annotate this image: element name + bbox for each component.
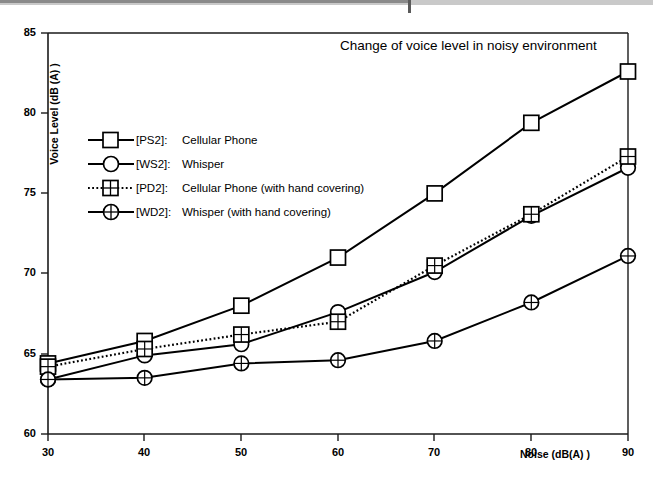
data-point xyxy=(524,115,539,130)
legend-item-pd2[interactable]: [PD2]: Cellular Phone (with hand coverin… xyxy=(86,176,416,200)
data-point xyxy=(137,371,152,386)
y-axis-title: Voice Level (dB (A) ) xyxy=(48,44,60,184)
x-tick-label-50: 50 xyxy=(227,446,255,458)
plot-frame xyxy=(48,33,628,434)
legend-item-wd2[interactable]: [WD2]: Whisper (with hand covering) xyxy=(86,200,416,224)
x-tick-label-90: 90 xyxy=(614,446,642,458)
data-point xyxy=(234,356,249,371)
data-point xyxy=(621,149,636,164)
data-point xyxy=(331,314,346,329)
data-point xyxy=(234,327,249,342)
data-point xyxy=(137,341,152,356)
x-tick-label-30: 30 xyxy=(34,446,62,458)
data-point xyxy=(427,334,442,349)
chart-title: Change of voice level in noisy environme… xyxy=(340,38,597,53)
data-point xyxy=(427,258,442,273)
y-tick-label-85: 85 xyxy=(14,26,36,38)
y-tick-label-70: 70 xyxy=(14,266,36,278)
legend-label-ws2: Whisper xyxy=(182,158,224,170)
chart-legend: [PS2]: Cellular Phone [WS2]: Whisper xyxy=(86,128,416,224)
legend-key-ps2: [PS2]: xyxy=(136,134,182,146)
y-tick-label-60: 60 xyxy=(14,427,36,439)
y-tick-label-80: 80 xyxy=(14,106,36,118)
x-tick-label-70: 70 xyxy=(420,446,448,458)
legend-label-ps2: Cellular Phone xyxy=(182,134,257,146)
data-point xyxy=(524,295,539,310)
y-tick-label-75: 75 xyxy=(14,186,36,198)
data-point xyxy=(427,186,442,201)
y-tick-label-65: 65 xyxy=(14,347,36,359)
data-point xyxy=(41,372,56,387)
data-point xyxy=(524,207,539,222)
data-point xyxy=(621,64,636,79)
legend-marker-circle-solid-icon xyxy=(86,154,136,174)
x-tick-marks xyxy=(48,434,628,441)
legend-key-ws2: [WS2]: xyxy=(136,158,182,170)
x-tick-label-40: 40 xyxy=(130,446,158,458)
data-point xyxy=(331,353,346,368)
x-tick-label-60: 60 xyxy=(324,446,352,458)
legend-label-pd2: Cellular Phone (with hand covering) xyxy=(182,182,364,194)
legend-item-ps2[interactable]: [PS2]: Cellular Phone xyxy=(86,128,416,152)
legend-key-wd2: [WD2]: xyxy=(136,206,182,218)
legend-marker-square-solid-icon xyxy=(86,130,136,150)
legend-item-ws2[interactable]: [WS2]: Whisper xyxy=(86,152,416,176)
line-chart-plot xyxy=(0,0,653,479)
legend-label-wd2: Whisper (with hand covering) xyxy=(182,206,331,218)
x-axis-title: Noise (dB(A) ) xyxy=(520,448,590,460)
legend-key-pd2: [PD2]: xyxy=(136,182,182,194)
data-point xyxy=(234,298,249,313)
data-point xyxy=(331,250,346,265)
data-series-layer xyxy=(41,64,636,387)
data-point xyxy=(621,249,636,264)
chart-figure: 85 80 75 70 65 60 30 40 50 60 70 80 90 V… xyxy=(0,0,653,479)
legend-marker-square-crossed-dotted-icon xyxy=(86,178,136,198)
legend-marker-circle-crossed-solid-icon xyxy=(86,202,136,222)
